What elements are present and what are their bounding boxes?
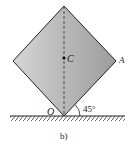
center-point [62, 56, 65, 59]
figure-caption: b) [60, 131, 68, 141]
label-center: C [67, 53, 74, 64]
angle-arc [75, 105, 80, 116]
ground-hatching [10, 116, 125, 121]
square-block [13, 6, 116, 116]
diagram-figure: C A O 45° b) [0, 0, 130, 143]
diagram-canvas: C A O 45° b) [0, 0, 130, 143]
label-corner-a: A [118, 55, 125, 65]
label-angle: 45° [83, 104, 96, 114]
label-pivot-o: O [47, 106, 54, 117]
